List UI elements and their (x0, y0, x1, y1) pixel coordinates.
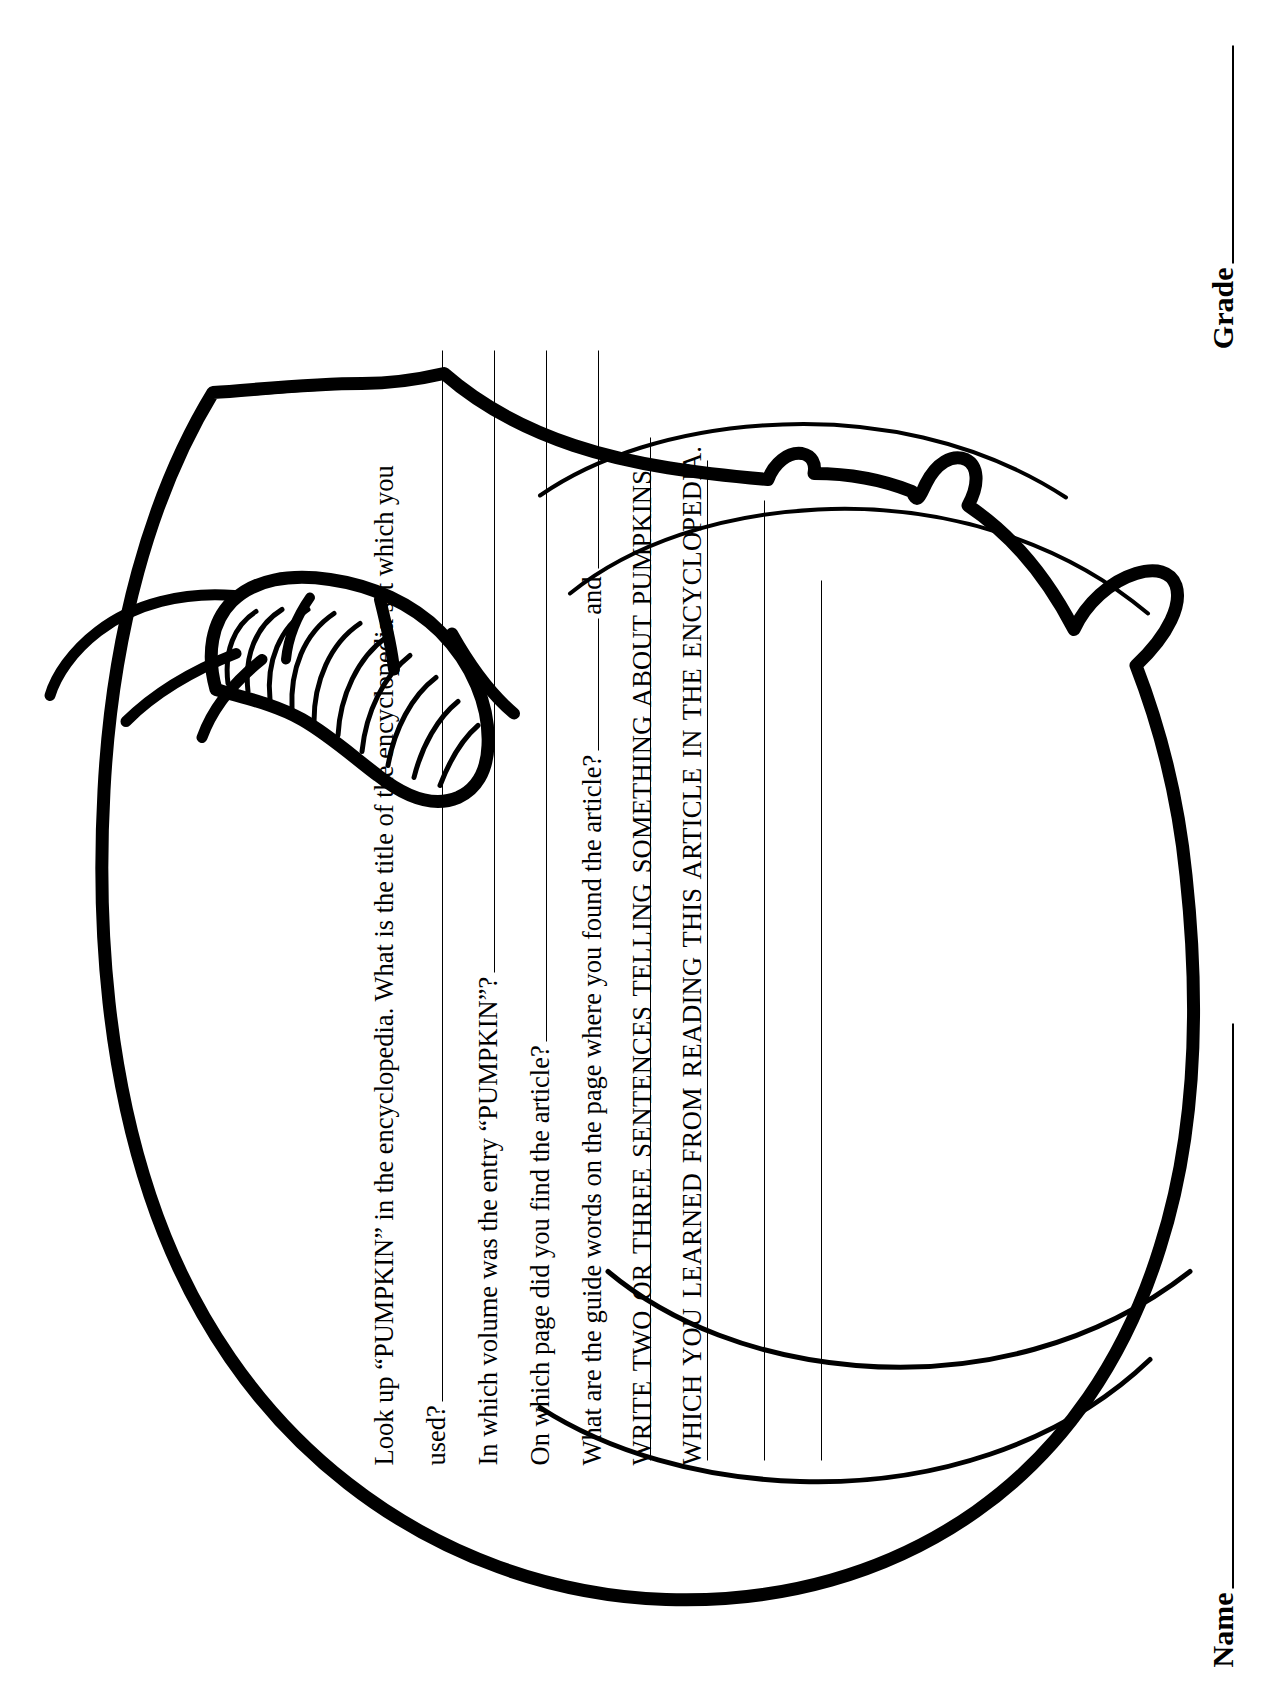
question-3-text: On which page did you find the article? (527, 1045, 554, 1465)
question-1-line-1: Look up “PUMPKIN” in the encyclopedia. W… (345, 350, 397, 1465)
answer-writing-lines (594, 437, 822, 1460)
question-3-line: On which page did you find the article? (501, 350, 553, 1465)
writing-line[interactable] (651, 460, 708, 1460)
question-1-answer-blank[interactable] (441, 350, 443, 1401)
name-input-line[interactable] (1231, 1023, 1234, 1588)
writing-line[interactable] (708, 500, 765, 1460)
name-label: Name (1206, 1592, 1240, 1667)
question-2-text: In which volume was the entry “PUMPKIN”? (475, 976, 502, 1465)
grade-field[interactable]: Grade (1206, 45, 1240, 349)
grade-input-line[interactable] (1231, 45, 1234, 263)
question-2-line: In which volume was the entry “PUMPKIN”? (449, 350, 501, 1465)
grade-label: Grade (1206, 267, 1240, 349)
question-1-line-2: used? (397, 350, 449, 1465)
writing-line[interactable] (765, 580, 822, 1460)
worksheet-page: Look up “PUMPKIN” in the encyclopedia. W… (0, 0, 1262, 1695)
question-1-text-part-1: Look up “PUMPKIN” in the encyclopedia. W… (371, 465, 398, 1465)
pumpkin-tendril-short-path (286, 597, 310, 659)
writing-line[interactable] (594, 437, 651, 1460)
name-field[interactable]: Name (1206, 1023, 1240, 1667)
question-2-answer-blank[interactable] (493, 350, 495, 972)
question-3-answer-blank[interactable] (545, 350, 547, 1041)
worksheet-sheet: Look up “PUMPKIN” in the encyclopedia. W… (0, 0, 1262, 1695)
question-1-text-part-2: used? (423, 1405, 450, 1465)
